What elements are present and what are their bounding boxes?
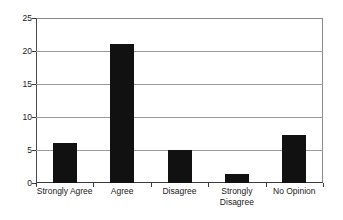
y-tick-label: 20 — [4, 47, 32, 56]
x-tick-mark — [36, 183, 37, 187]
y-tick-label: 25 — [4, 14, 32, 23]
bar — [53, 143, 77, 183]
y-tick-label: 0 — [4, 179, 32, 188]
bar — [282, 135, 306, 183]
x-category-label: No Opinion — [260, 186, 329, 197]
bar — [110, 44, 134, 183]
x-tick-mark — [266, 183, 267, 187]
y-tick-label: 5 — [4, 146, 32, 155]
y-tick-label: 10 — [4, 113, 32, 122]
bar — [168, 150, 192, 183]
x-tick-mark — [93, 183, 94, 187]
x-tick-mark — [323, 183, 324, 187]
bar — [225, 174, 249, 183]
bars-group — [36, 18, 323, 183]
x-tick-mark — [151, 183, 152, 187]
x-axis: Strongly AgreeAgreeDisagreeStrongly Disa… — [36, 186, 323, 218]
x-tick-mark — [208, 183, 209, 187]
y-tick-label: 15 — [4, 80, 32, 89]
bar-chart: 0510152025 Strongly AgreeAgreeDisagreeSt… — [0, 0, 343, 220]
